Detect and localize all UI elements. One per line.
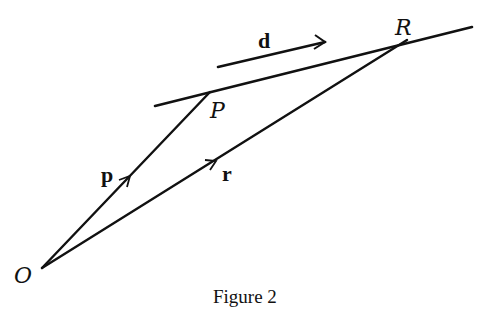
vector-label-p: p: [101, 162, 113, 187]
vector-d-line: [218, 42, 325, 67]
figure-caption: Figure 2: [213, 286, 277, 307]
vector-label-d: d: [258, 28, 270, 53]
vector-r-line: [42, 40, 407, 268]
line-through-p-and-r: [155, 27, 472, 106]
point-label-o: O: [14, 263, 32, 288]
point-label-p: P: [209, 98, 226, 123]
point-label-r: R: [394, 15, 412, 40]
vector-label-r: r: [222, 161, 232, 186]
figure-2-diagram: O P R p r d Figure 2: [0, 0, 492, 314]
